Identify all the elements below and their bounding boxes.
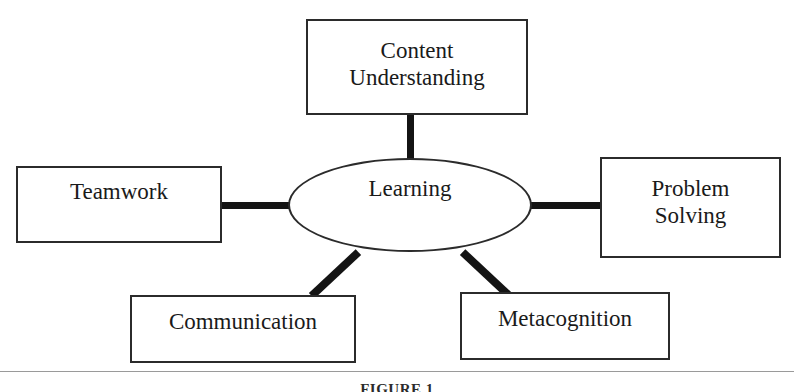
node-teamwork: Teamwork: [16, 166, 222, 243]
node-metacognition-label: Metacognition: [492, 305, 638, 332]
connector-learning-to-problem-solving: [520, 202, 608, 209]
node-problem-solving-label: Problem Solving: [646, 175, 736, 229]
figure-canvas: Content Understanding Teamwork Problem S…: [0, 0, 794, 392]
node-metacognition: Metacognition: [460, 292, 670, 360]
node-teamwork-label: Teamwork: [64, 178, 174, 205]
node-content-understanding: Content Understanding: [306, 19, 528, 115]
node-learning-ellipse: Learning: [288, 158, 532, 252]
node-content-understanding-label: Content Understanding: [343, 37, 490, 91]
node-communication-label: Communication: [163, 308, 323, 335]
node-learning-label: Learning: [368, 176, 451, 202]
node-problem-solving: Problem Solving: [600, 157, 781, 258]
node-communication: Communication: [130, 295, 356, 363]
connector-learning-to-communication: [309, 249, 361, 298]
figure-caption: FIGURE 1: [0, 381, 794, 392]
caption-divider: [0, 371, 794, 372]
